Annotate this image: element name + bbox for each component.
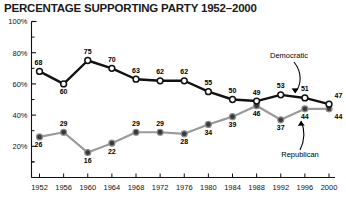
svg-text:70: 70 (108, 56, 116, 63)
svg-text:60: 60 (60, 88, 68, 95)
svg-text:100%: 100% (8, 17, 28, 26)
svg-text:55: 55 (204, 79, 212, 86)
svg-text:29: 29 (132, 120, 140, 127)
svg-text:75: 75 (84, 48, 92, 55)
svg-text:29: 29 (156, 120, 164, 127)
svg-text:1968: 1968 (128, 183, 145, 192)
svg-text:1956: 1956 (55, 183, 72, 192)
svg-text:22: 22 (108, 148, 116, 155)
svg-text:50: 50 (229, 87, 237, 94)
svg-text:62: 62 (156, 68, 164, 75)
svg-text:47: 47 (335, 92, 343, 99)
svg-text:1980: 1980 (200, 183, 217, 192)
svg-text:1972: 1972 (152, 183, 169, 192)
svg-text:40%: 40% (12, 111, 27, 120)
svg-text:68: 68 (35, 59, 43, 66)
svg-text:46: 46 (253, 110, 261, 117)
svg-text:Democratic: Democratic (270, 51, 308, 60)
svg-text:34: 34 (204, 129, 212, 136)
y-axis-tick-labels: 20%40%60%80%100% (8, 17, 28, 151)
svg-text:1996: 1996 (297, 183, 314, 192)
svg-text:53: 53 (277, 82, 285, 89)
svg-text:60%: 60% (12, 80, 27, 89)
svg-text:62: 62 (180, 68, 188, 75)
line-chart-plot: 20%40%60%80%100% 19521956196019641968197… (0, 0, 346, 202)
svg-text:16: 16 (84, 157, 92, 164)
svg-text:1960: 1960 (79, 183, 96, 192)
svg-text:49: 49 (253, 89, 261, 96)
svg-text:1984: 1984 (224, 183, 241, 192)
svg-text:26: 26 (35, 141, 43, 148)
svg-text:2000: 2000 (321, 183, 338, 192)
svg-text:29: 29 (60, 120, 68, 127)
svg-text:80%: 80% (12, 49, 27, 58)
svg-text:1988: 1988 (248, 183, 265, 192)
svg-text:Republican: Republican (281, 150, 319, 159)
x-axis-tick-labels: 1952195619601964196819721976198019841988… (31, 183, 337, 192)
svg-text:20%: 20% (12, 142, 27, 151)
svg-text:37: 37 (277, 124, 285, 131)
svg-text:1952: 1952 (31, 183, 48, 192)
svg-text:44: 44 (335, 113, 343, 120)
svg-text:28: 28 (180, 138, 188, 145)
svg-text:39: 39 (229, 121, 237, 128)
svg-text:44: 44 (301, 113, 309, 120)
svg-text:1976: 1976 (176, 183, 193, 192)
svg-text:1964: 1964 (104, 183, 121, 192)
series-annotations: DemocraticRepublican (270, 51, 319, 159)
svg-text:63: 63 (132, 67, 140, 74)
svg-text:51: 51 (301, 85, 309, 92)
chart-container: PERCENTAGE SUPPORTING PARTY 1952–2000 20… (0, 0, 346, 202)
svg-text:1992: 1992 (272, 183, 289, 192)
